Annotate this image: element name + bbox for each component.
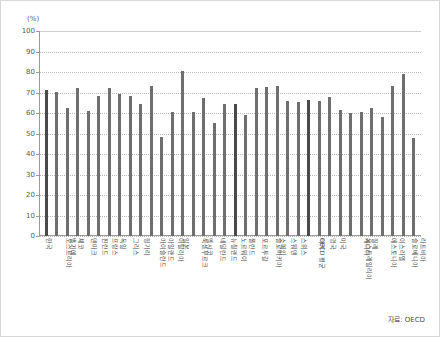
x-axis-label-slot: 네덜란드	[209, 238, 220, 300]
x-axis-label-slot: 노르웨이	[230, 238, 241, 300]
y-axis-tick-label: 70	[26, 89, 35, 97]
x-axis-label-slot: 캐나다	[356, 238, 367, 300]
bar	[223, 104, 226, 236]
bar	[276, 86, 279, 236]
bar-slot	[136, 31, 147, 236]
x-axis-label-slot: 이스라엘	[388, 238, 399, 300]
bar-slot	[41, 31, 52, 236]
bar	[213, 123, 216, 236]
x-axis-label-slot: 이탈리아	[167, 238, 178, 300]
x-axis-label-slot: 터키	[314, 238, 325, 300]
bar	[328, 97, 331, 236]
x-axis-label-slot: OECD 평균	[304, 238, 315, 300]
y-axis-tick-label: 90	[26, 48, 35, 56]
bar-slot	[167, 31, 178, 236]
bar-slot	[346, 31, 357, 236]
bar-slot	[293, 31, 304, 236]
x-axis-label-slot: 영국	[325, 238, 336, 300]
y-axis-tick-label: 10	[26, 212, 35, 220]
bar-slot	[52, 31, 63, 236]
y-axis-unit-label: (%)	[27, 15, 39, 23]
plot-area: 0102030405060708090100	[39, 31, 421, 236]
y-axis-tick-label: 0	[31, 232, 35, 240]
bar	[192, 112, 195, 236]
x-axis-label-slot: 칠레	[367, 238, 378, 300]
bar-slot	[409, 31, 420, 236]
bar-slot	[272, 31, 283, 236]
bar-slot	[335, 31, 346, 236]
bar	[234, 104, 237, 236]
x-axis-label-slot: 포르투갈	[251, 238, 262, 300]
bar-slot	[104, 31, 115, 236]
x-axis-label-slot: 헝가리	[136, 238, 147, 300]
bar-slot	[325, 31, 336, 236]
bar	[108, 88, 111, 236]
x-axis-label-slot: 폴란드	[241, 238, 252, 300]
bar	[339, 110, 342, 236]
bar-slot	[398, 31, 409, 236]
x-axis-label-slot: 뉴질랜드	[220, 238, 231, 300]
bar	[244, 115, 247, 236]
x-axis-label-slot: 오스트리아	[52, 238, 63, 300]
x-axis-label-slot: 스페인	[272, 238, 283, 300]
bar	[87, 111, 90, 236]
bar-slot	[188, 31, 199, 236]
bar	[297, 102, 300, 236]
bar-slot	[251, 31, 262, 236]
y-axis-tick-label: 60	[26, 109, 35, 117]
bar	[171, 112, 174, 236]
bar-slot	[146, 31, 157, 236]
x-axis-label-slot: 오스트레일리아	[346, 238, 357, 300]
bar-slot	[304, 31, 315, 236]
bar	[402, 74, 405, 236]
x-axis-label-slot: 독일	[115, 238, 126, 300]
x-axis-label-slot: 그리스	[125, 238, 136, 300]
bar	[160, 137, 163, 236]
x-axis-label-slot: 체코	[73, 238, 84, 300]
y-axis-tick-label: 30	[26, 171, 35, 179]
bar	[76, 88, 79, 236]
bar	[45, 90, 48, 236]
y-axis-tick-label: 20	[26, 191, 35, 199]
x-axis-label-slot: 슬로베니아	[398, 238, 409, 300]
x-axis-label-slot: 프랑스	[104, 238, 115, 300]
gridline	[39, 236, 421, 237]
y-axis-tick-mark	[36, 236, 39, 237]
bar	[97, 96, 100, 236]
bar-slot	[388, 31, 399, 236]
bar	[129, 96, 132, 236]
bar	[370, 108, 373, 236]
x-axis-label-slot: 아일랜드	[157, 238, 168, 300]
bar-slot	[262, 31, 273, 236]
bar-slot	[241, 31, 252, 236]
bar-slot	[125, 31, 136, 236]
bar-slot	[367, 31, 378, 236]
bar	[139, 104, 142, 236]
bar	[66, 108, 69, 236]
bar-slot	[157, 31, 168, 236]
bar	[55, 92, 58, 236]
x-axis-label-slot: 덴마크	[83, 238, 94, 300]
x-axis-label-slot: 일본	[178, 238, 189, 300]
bar	[412, 138, 415, 236]
bar-slot	[62, 31, 73, 236]
bar-slot	[73, 31, 84, 236]
bar	[118, 94, 121, 236]
bar-slot	[356, 31, 367, 236]
x-axis-label-slot: 핀란드	[94, 238, 105, 300]
bar-slot	[83, 31, 94, 236]
bar-slot	[314, 31, 325, 236]
bar	[286, 101, 289, 236]
bar-slot	[94, 31, 105, 236]
bar-series	[39, 31, 421, 236]
x-axis-label-slot: 슬로바키아	[262, 238, 273, 300]
x-axis-label-slot: 멕시코	[199, 238, 210, 300]
y-axis-tick-label: 50	[26, 130, 35, 138]
bar	[381, 117, 384, 236]
y-axis-tick-label: 40	[26, 150, 35, 158]
source-note: 자료: OECD	[388, 314, 425, 324]
bar-slot	[220, 31, 231, 236]
chart-figure: (%) 0102030405060708090100 한국오스트리아벨기에체코덴…	[0, 0, 440, 337]
bar	[202, 98, 205, 236]
bar	[150, 86, 153, 236]
